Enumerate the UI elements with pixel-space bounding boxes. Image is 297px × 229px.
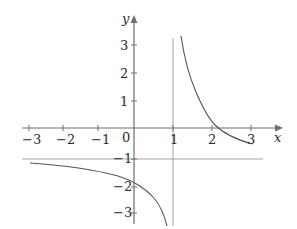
y-tick-label--2: −2 bbox=[113, 180, 132, 193]
x-tick-label-1: 1 bbox=[170, 133, 178, 146]
y-axis-label: y bbox=[122, 12, 129, 25]
x-tick-label-2: 2 bbox=[208, 133, 216, 146]
y-tick-label--3: −3 bbox=[113, 206, 132, 219]
x-tick-label--1: −1 bbox=[91, 133, 110, 146]
x-tick-label--3: −3 bbox=[22, 133, 41, 146]
x-axis-label: x bbox=[274, 131, 281, 144]
x-tick-label--2: −2 bbox=[56, 133, 75, 146]
y-tick-label-1: 1 bbox=[120, 95, 128, 108]
y-tick-label-2: 2 bbox=[120, 67, 128, 80]
y-tick-label-3: 3 bbox=[120, 39, 128, 52]
graph-figure: −3 −2 −1 0 1 2 3 3 2 1 −1 −2 −3 x y bbox=[0, 0, 297, 229]
plot-canvas bbox=[0, 0, 297, 229]
curve-left-branch bbox=[30, 163, 167, 226]
y-tick-label--1: −1 bbox=[113, 152, 132, 165]
y-axis-arrowhead bbox=[131, 15, 138, 23]
x-tick-label-3: 3 bbox=[247, 133, 255, 146]
x-tick-label-0: 0 bbox=[122, 131, 130, 144]
